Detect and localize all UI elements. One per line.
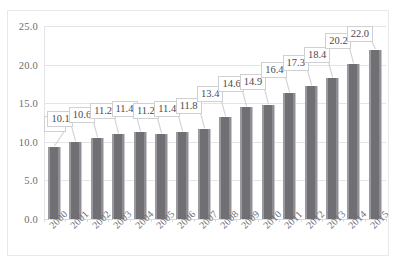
y-axis-tick-label: 20.0	[19, 59, 38, 70]
bar-slot	[343, 27, 364, 220]
bar[interactable]	[240, 107, 253, 220]
y-axis-tick-label: 25.0	[19, 21, 38, 32]
y-axis-tick-label: 0.0	[24, 214, 38, 225]
bar[interactable]	[91, 138, 104, 220]
category-tick	[365, 219, 366, 222]
bar-series	[44, 26, 386, 220]
bar[interactable]	[283, 93, 296, 220]
bar-slot	[236, 27, 257, 220]
category-tick	[215, 219, 216, 222]
category-tick	[322, 219, 323, 222]
data-label: 18.4	[304, 47, 330, 63]
bar-slot	[108, 27, 129, 220]
bar-slot	[151, 27, 172, 220]
category-tick	[279, 219, 280, 222]
bar-slot	[258, 27, 279, 220]
bar-slot	[365, 27, 386, 220]
category-tick	[386, 219, 387, 222]
category-tick	[130, 219, 131, 222]
category-tick	[301, 219, 302, 222]
bar[interactable]	[176, 132, 189, 220]
y-axis-tick-label: 15.0	[19, 98, 38, 109]
bar[interactable]	[155, 134, 168, 220]
bar-slot	[130, 27, 151, 220]
plot-area: 25.020.015.010.05.00.0 9.410.110.611.211…	[44, 26, 386, 219]
y-axis-tick-label: 10.0	[19, 136, 38, 147]
category-tick	[343, 219, 344, 222]
bar[interactable]	[305, 86, 318, 220]
bar[interactable]	[69, 142, 82, 220]
category-tick	[87, 219, 88, 222]
bar[interactable]	[198, 129, 211, 220]
category-tick	[236, 219, 237, 222]
bar[interactable]	[112, 134, 125, 220]
chart-title	[0, 0, 396, 9]
category-tick	[108, 219, 109, 222]
bar-slot	[215, 27, 236, 220]
bar-slot	[87, 27, 108, 220]
bar[interactable]	[347, 64, 360, 220]
bar-slot	[172, 27, 193, 220]
data-label: 22.0	[347, 26, 373, 42]
bar[interactable]	[326, 78, 339, 220]
category-tick	[151, 219, 152, 222]
category-tick	[172, 219, 173, 222]
category-tick	[194, 219, 195, 222]
bar[interactable]	[262, 105, 275, 220]
category-tick	[44, 219, 45, 222]
bar[interactable]	[369, 50, 382, 220]
bar-chart: 25.020.015.010.05.00.0 9.410.110.611.211…	[0, 0, 396, 266]
bar[interactable]	[134, 132, 147, 220]
bar[interactable]	[219, 117, 232, 220]
y-axis-tick-label: 5.0	[24, 175, 38, 186]
bar-slot	[194, 27, 215, 220]
category-tick	[258, 219, 259, 222]
category-tick	[65, 219, 66, 222]
